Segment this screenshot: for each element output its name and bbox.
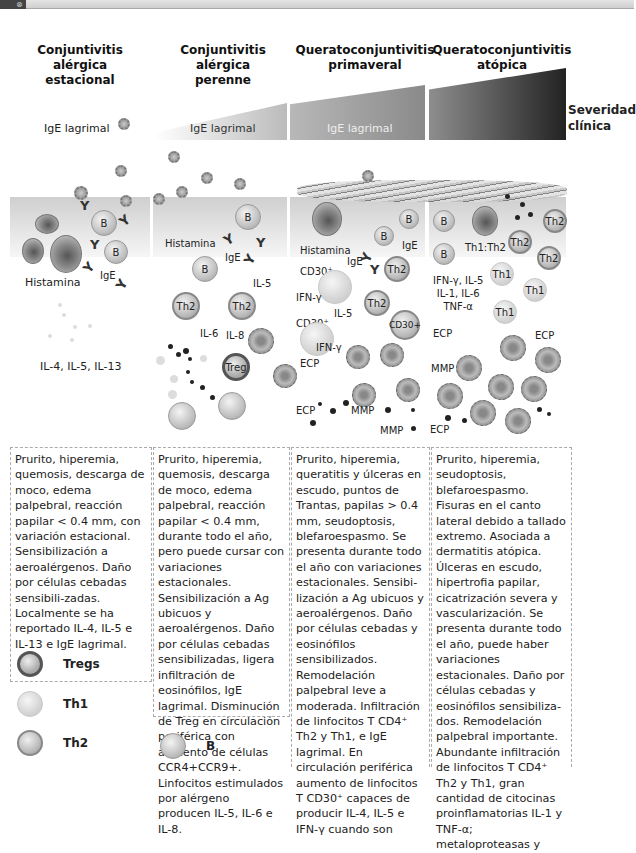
app-badge: ⊗	[0, 0, 26, 9]
ige-antibody-icon: Y	[256, 235, 265, 250]
ifn-label: IFN-γ	[296, 292, 322, 303]
description-box-primaveral: Prurito, hiperemia, queratitis y úlceras…	[291, 447, 430, 767]
pollen-icon	[201, 172, 213, 184]
b-cell: B	[91, 210, 117, 236]
severity-bar-atopica	[429, 68, 566, 140]
il5-label: IL-5	[253, 278, 271, 289]
granule-dot	[445, 415, 451, 421]
legend-item-b: B	[160, 733, 215, 759]
cytokines-label: IL-4, IL-5, IL-13	[40, 360, 121, 373]
title-line: Conjuntivitis	[20, 43, 140, 58]
granule-dot	[515, 215, 520, 220]
granule-dot	[385, 407, 391, 413]
eosinophil-cell	[521, 376, 547, 402]
cytokine-dot	[168, 390, 177, 399]
granule-dot	[188, 357, 192, 361]
granule-dot	[183, 348, 189, 354]
histamina-label: Histamina	[165, 238, 216, 249]
severity-label-line: clínica	[568, 118, 636, 134]
pollen-icon	[176, 186, 188, 198]
b-cell: B	[235, 204, 261, 230]
granule-dot	[186, 370, 190, 374]
cytokines-label: IFN-γ, IL-5 IL-1, IL-6 TNF-α	[433, 274, 483, 313]
th2-cell: Th2	[508, 230, 532, 254]
granule-dot	[330, 408, 336, 414]
cytokine-dot	[73, 325, 77, 329]
b-cell: B	[399, 209, 419, 229]
eosinophil-cell	[535, 347, 561, 373]
cytokine-dot	[170, 375, 178, 383]
legend-label: B	[206, 739, 215, 753]
granule-dot	[210, 395, 215, 400]
mmp-label: MMP	[351, 405, 374, 416]
granule-dot	[310, 420, 316, 426]
cytokine-dot	[48, 334, 52, 338]
il5-label: IL-5	[334, 308, 352, 319]
description-box-atopica: Prurito, hiperemia, seudoptosis, blefaro…	[431, 447, 572, 767]
mast-cell	[472, 206, 498, 236]
ige-label: IgE	[402, 240, 418, 251]
cytokine-line: TNF-α	[433, 300, 483, 313]
ige-antibody-icon: Y	[370, 262, 379, 277]
legend-item-th2: Th2	[17, 730, 88, 756]
eosinophil-cell	[380, 343, 404, 367]
ige-antibody-icon: Y	[80, 259, 98, 276]
eosinophil-cell	[488, 374, 514, 400]
eosinophil-cell	[346, 345, 370, 369]
th2-cell: Th2	[384, 256, 410, 282]
th2-cell: Th2	[172, 292, 200, 320]
column-title-estacional: Conjuntivitis alérgica estacional	[20, 43, 140, 88]
histamina-label: Histamina	[25, 276, 81, 289]
cytokine-dot	[200, 355, 207, 362]
mast-cell	[35, 214, 59, 234]
granule-dot	[411, 408, 415, 412]
granule-dot	[168, 344, 173, 349]
th1-cell	[318, 270, 352, 304]
mast-cell	[312, 202, 342, 236]
title-line: Queratoconjuntivitis	[295, 43, 435, 58]
eosinophil-cell	[396, 378, 420, 402]
pollen-icon	[362, 170, 374, 182]
th1-cell: Th1	[523, 278, 547, 302]
th2-cell: Th2	[537, 246, 561, 270]
cytokine-line: IL-1, IL-6	[433, 287, 483, 300]
cd30-cell: CD30+	[390, 310, 420, 340]
b-cell: B	[433, 243, 455, 265]
ige-lagrimal-label: IgE lagrimal	[190, 122, 256, 135]
title-line: Queratoconjuntivitis	[432, 43, 572, 58]
eosinophil-cell	[248, 328, 274, 354]
column-title-atopica: Queratoconjuntivitis atópica	[432, 43, 572, 73]
eosinophil-cell	[470, 400, 496, 426]
pollen-icon	[120, 195, 132, 207]
title-line: alérgica	[20, 58, 140, 73]
description-box-perenne: Prurito, hiperemia, quemosis, descarga d…	[153, 447, 290, 717]
granule-dot	[190, 380, 194, 384]
pollen-icon	[168, 151, 180, 163]
eosinophil-cell	[437, 383, 463, 409]
th2-cell: Th2	[543, 209, 567, 233]
treg-cell-icon	[17, 651, 43, 677]
window-top-bar: ⊗	[0, 0, 634, 9]
severity-label-line: Severidad	[568, 102, 636, 118]
b-cell: B	[104, 240, 128, 264]
th1-cell: Th1	[493, 300, 517, 324]
eosinophil-cell	[456, 355, 482, 381]
legend-item-th1: Th1	[17, 691, 88, 717]
b-cell: B	[433, 210, 455, 232]
ige-lagrimal-label: IgE lagrimal	[44, 122, 110, 135]
granule-dot	[200, 385, 205, 390]
eosinophil-cell	[505, 408, 531, 434]
cytokine-dot	[62, 313, 66, 317]
th2-cell: Th2	[228, 292, 256, 320]
cytokine-line: IFN-γ, IL-5	[433, 274, 483, 287]
th1-cell-icon	[17, 691, 43, 717]
cytokine-dot	[156, 356, 165, 365]
ige-antibody-icon: Y	[80, 198, 89, 213]
granule-dot	[318, 402, 322, 406]
b-cell	[168, 402, 196, 430]
eosinophil-cell	[273, 364, 297, 388]
ifn-label: IFN-γ	[316, 342, 342, 353]
collagen-fibers	[297, 180, 567, 202]
b-cell: B	[192, 256, 218, 282]
title-line: perenne	[158, 73, 288, 88]
